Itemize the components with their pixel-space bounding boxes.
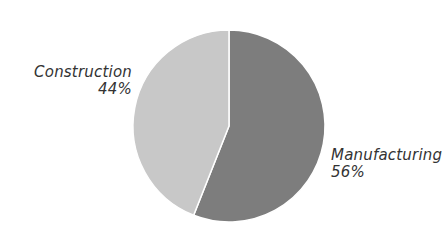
manufacturing-name: Manufacturing <box>331 147 442 164</box>
manufacturing-label: Manufacturing 56% <box>331 147 442 181</box>
manufacturing-pct: 56% <box>331 164 442 181</box>
construction-pct: 44% <box>34 81 132 98</box>
construction-name: Construction <box>34 64 132 81</box>
construction-label: Construction 44% <box>34 64 132 98</box>
pie-svg <box>0 0 442 241</box>
